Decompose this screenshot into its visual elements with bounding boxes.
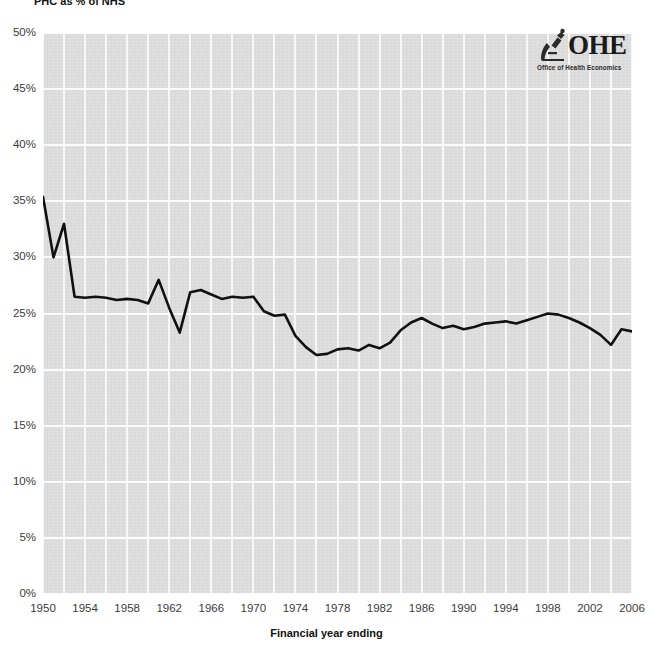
y-axis-tick-label: 35%	[0, 194, 36, 206]
plot-area	[43, 33, 632, 594]
logo-tagline: Office of Health Economics	[537, 64, 621, 71]
ohe-logo: OHE Office of Health Economics	[536, 28, 634, 78]
y-axis-tick-label: 5%	[0, 531, 36, 543]
y-axis-tick-label: 15%	[0, 419, 36, 431]
y-axis-tick-label: 10%	[0, 475, 36, 487]
logo-wordmark: OHE	[568, 30, 627, 61]
y-axis-tick-label: 45%	[0, 82, 36, 94]
x-axis-title: Financial year ending	[0, 627, 653, 639]
y-axis-tick-label: 30%	[0, 250, 36, 262]
chart-title: PHC as % of NHS	[34, 0, 125, 7]
y-axis-tick-label: 25%	[0, 307, 36, 319]
y-axis-tick-label: 20%	[0, 363, 36, 375]
data-line-phc-share	[43, 33, 632, 594]
chart-page: PHC as % of NHS 0%5%10%15%20%25%30%35%40…	[0, 0, 653, 653]
y-axis-tick-label: 50%	[0, 26, 36, 38]
y-axis-tick-label: 0%	[0, 587, 36, 599]
y-axis-tick-label: 40%	[0, 138, 36, 150]
x-axis-tick-label: 2006	[607, 602, 653, 614]
microscope-icon	[536, 28, 570, 64]
